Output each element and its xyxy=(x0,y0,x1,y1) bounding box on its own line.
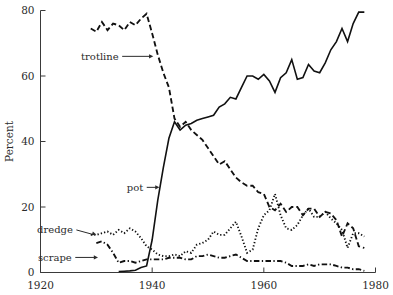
annotation-arrow-scrape xyxy=(75,255,98,259)
x-tick-label: 1920 xyxy=(27,279,54,291)
annotation-label-pot: pot xyxy=(127,182,143,193)
series-line-pot xyxy=(119,12,365,271)
y-tick-label: 80 xyxy=(21,4,34,16)
y-tick-label: 20 xyxy=(21,201,34,213)
y-tick-label: 0 xyxy=(28,266,35,278)
y-axis-title: Percent xyxy=(3,120,15,162)
series-line-dredge xyxy=(91,194,365,256)
series-line-trotline xyxy=(91,14,365,248)
annotation-arrow-dredge xyxy=(76,230,96,236)
x-tick-label: 1940 xyxy=(139,279,166,291)
annotation-arrow-trotline xyxy=(122,54,153,58)
annotation-layer: trotlinepotdredgescrape xyxy=(37,51,159,263)
line-chart: 0204060801920194019601980Percent trotlin… xyxy=(0,0,393,295)
annotation-label-dredge: dredge xyxy=(37,224,73,235)
series-line-scrape xyxy=(96,241,364,270)
axes-layer: 0204060801920194019601980Percent xyxy=(3,4,389,290)
annotation-arrow-pot xyxy=(147,185,160,189)
annotation-label-scrape: scrape xyxy=(38,252,72,263)
chart-container: 0204060801920194019601980Percent trotlin… xyxy=(0,0,393,295)
x-tick-label: 1980 xyxy=(362,279,389,291)
annotation-label-trotline: trotline xyxy=(81,51,119,62)
x-tick-label: 1960 xyxy=(250,279,277,291)
y-tick-label: 40 xyxy=(21,135,34,147)
y-tick-label: 60 xyxy=(21,70,34,82)
series-layer xyxy=(91,12,365,271)
